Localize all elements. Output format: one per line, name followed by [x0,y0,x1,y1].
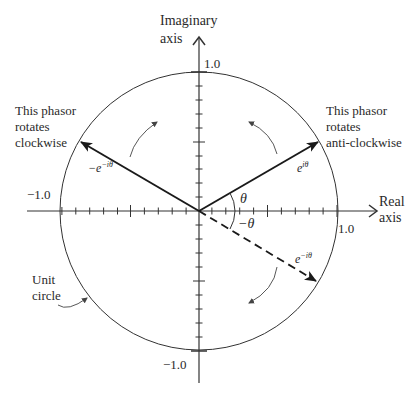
phasor-neg-e-neg-i-theta-label: −e−iθ [88,160,113,175]
tick-label-top: 1.0 [204,56,220,71]
minus-theta-arc [230,211,235,229]
svg-text:clockwise: clockwise [15,135,67,150]
clockwise-rotation-arrow-lower [249,267,277,303]
phasor-neg-e-neg-i-theta [81,142,199,211]
anticlockwise-annotation: This phasor rotates anti-clockwise [326,103,402,150]
svg-text:This phasor: This phasor [15,103,77,118]
tick-label-right: 1.0 [338,221,354,236]
svg-text:This phasor: This phasor [326,103,388,118]
theta-arc [230,193,235,211]
svg-text:anti-clockwise: anti-clockwise [326,135,402,150]
phasor-e-neg-i-theta [199,211,316,281]
unit-circle-pointer-arrow [58,298,87,307]
theta-label: θ [240,191,247,206]
phasor-diagram: Imaginary axis Real axis 1.0 −1.0 −1.0 1… [0,0,417,395]
clockwise-annotation: This phasor rotates clockwise [15,103,77,150]
tick-label-left: −1.0 [27,187,51,202]
phasor-e-neg-i-theta-label: e−iθ [295,251,312,266]
unit-circle-annotation: Unit circle [32,272,87,307]
imaginary-axis-label: Imaginary [160,13,218,28]
imaginary-axis-label-2: axis [160,31,183,46]
svg-text:rotates: rotates [326,119,361,134]
real-axis-label-2: axis [379,210,402,225]
tick-label-bottom: −1.0 [163,357,187,372]
svg-text:circle: circle [32,288,61,303]
real-axis [27,205,377,217]
clockwise-rotation-arrow-upper [130,122,157,157]
minus-theta-label: −θ [238,216,254,231]
svg-text:rotates: rotates [15,119,50,134]
phasor-e-i-theta [199,142,318,211]
phasor-e-i-theta-label: eiθ [297,160,309,175]
real-axis-label: Real [379,194,405,209]
anticlockwise-rotation-arrow [249,122,277,154]
svg-text:Unit: Unit [32,272,56,287]
